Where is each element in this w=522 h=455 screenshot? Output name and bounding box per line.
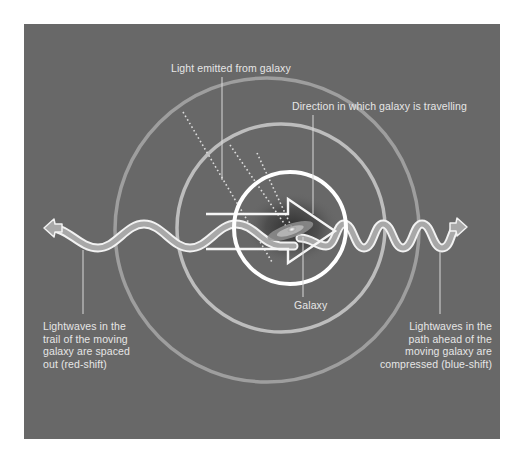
label-red-shift: Lightwaves in the trail of the moving ga… — [43, 320, 130, 370]
label-blue-shift: Lightwaves in the path ahead of the movi… — [380, 320, 492, 370]
label-direction: Direction in which galaxy is travelling — [292, 100, 467, 113]
label-light-emitted: Light emitted from galaxy — [171, 62, 291, 75]
label-galaxy: Galaxy — [294, 299, 327, 312]
